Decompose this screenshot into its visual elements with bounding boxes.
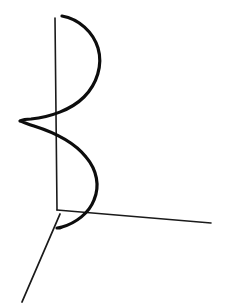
sketch-svg	[0, 0, 228, 306]
figure-canvas: 3D axes with helix curve	[0, 0, 228, 306]
canvas-background	[0, 0, 228, 306]
